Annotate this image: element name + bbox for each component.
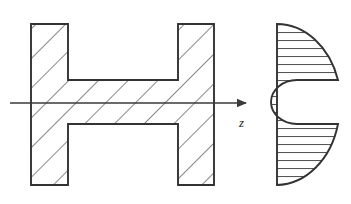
cross-section-view — [271, 18, 347, 193]
h-profile-hatching — [25, 18, 225, 193]
technical-drawing-figure: z — [0, 0, 351, 204]
figure-canvas: z — [0, 0, 351, 204]
longitudinal-section-view — [25, 18, 225, 193]
cross-section-hatching — [272, 18, 347, 193]
z-axis-label: z — [238, 115, 244, 130]
